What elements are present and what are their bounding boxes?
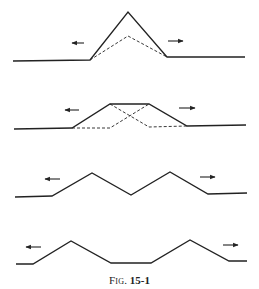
caption-prefix: Fig. [109,274,127,286]
resultant-pulse-solid [14,104,246,129]
component-pulse-dashed [72,104,149,128]
component-pulse-dashed [90,36,167,60]
figure-caption: Fig. 15-1 [0,274,259,286]
resultant-pulse-solid [16,240,247,264]
wave-pulse-diagram [0,0,259,289]
pulse-panel-4 [16,240,247,264]
pulse-panel-3 [15,172,247,197]
pulse-panel-2 [14,104,246,129]
component-pulse-dashed [110,104,187,127]
pulse-panel-1 [13,12,245,61]
caption-number: 15-1 [130,274,150,286]
resultant-pulse-solid [15,172,247,197]
